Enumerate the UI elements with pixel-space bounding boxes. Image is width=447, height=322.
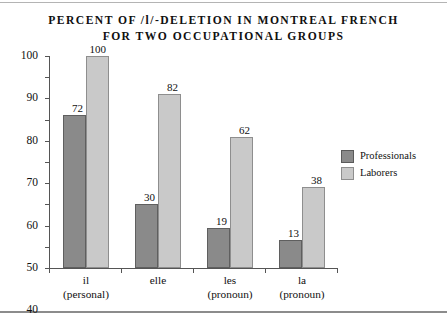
chart-figure: PERCENT OF /l/-DELETION IN MONTREAL FREN… [0,0,447,322]
bar-value-label: 38 [287,175,322,186]
legend-item-professionals: Professionals [341,149,441,164]
bar-laborers-les [230,137,253,268]
y-axis-tick-label: 50 [27,262,39,274]
bar-laborers-il [86,56,109,268]
x-axis-category-label: la(pronoun) [279,274,324,301]
legend-swatch [341,150,354,163]
y-axis-tick-label: 40 [27,305,39,317]
legend-swatch [341,167,354,180]
y-axis-tick: 50 [45,162,49,163]
y-axis-tick: 80 [45,98,49,99]
y-axis-tick-label: 90 [27,93,39,105]
chart-legend: ProfessionalsLaborers [341,149,441,183]
chart-title-line-2: FOR TWO OCCUPATIONAL GROUPS [0,29,447,45]
x-axis-category-label: elle [150,274,166,288]
y-axis-line [49,56,50,268]
x-axis-tick [121,268,122,273]
category-name: les [224,274,237,286]
x-axis-tick [49,268,50,273]
y-axis-tick: 30 [45,204,49,205]
bar-professionals-il [63,115,86,268]
y-axis-tick: 20 [45,226,49,227]
y-axis-tick: 60 [45,141,49,142]
category-name: il [83,274,89,286]
bar-professionals-la [279,240,302,268]
x-axis-category-label: il(personal) [63,274,109,301]
frame-bottom-border [0,311,447,313]
y-axis-tick: 40 [45,183,49,184]
legend-label: Professionals [360,151,416,162]
chart-title-line-1: PERCENT OF /l/-DELETION IN MONTREAL FREN… [48,14,398,27]
bar-value-label: 100 [71,44,106,55]
legend-label: Laborers [360,168,397,179]
bar-laborers-elle [158,94,181,268]
y-axis-tick-label: 80 [27,135,39,147]
y-axis-tick-label: 70 [27,177,39,189]
category-name: la [298,274,306,286]
bar-value-label: 72 [48,103,83,114]
category-sublabel: (pronoun) [279,288,324,302]
bar-value-label: 62 [215,125,250,136]
category-name: elle [150,274,166,286]
x-axis-tick [265,268,266,273]
bar-value-label: 13 [264,228,299,239]
y-axis-tick: 10 [45,247,49,248]
y-axis-tick: 70 [45,120,49,121]
y-axis-tick: 100 [45,56,49,57]
y-axis-tick-label: 100 [21,50,38,62]
bar-professionals-elle [135,204,158,268]
bar-value-label: 30 [120,192,155,203]
chart-title: PERCENT OF /l/-DELETION IN MONTREAL FREN… [0,13,447,44]
bar-value-label: 19 [192,216,227,227]
y-axis-tick: 90 [45,77,49,78]
category-sublabel: (pronoun) [207,288,252,302]
bar-laborers-la [302,187,325,268]
x-axis-tick [193,268,194,273]
x-axis-category-label: les(pronoun) [207,274,252,301]
category-sublabel: (personal) [63,288,109,302]
bar-value-label: 82 [143,82,178,93]
x-axis-tick [337,268,338,273]
frame-top-border [0,2,447,3]
legend-item-laborers: Laborers [341,166,441,181]
bar-professionals-les [207,228,230,268]
y-axis-tick-label: 60 [27,220,39,232]
plot-area: 0102030405060708090100 72100308219621338… [49,56,337,268]
